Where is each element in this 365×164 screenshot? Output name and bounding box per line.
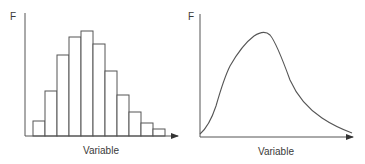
histogram-bar — [129, 112, 141, 136]
chart-canvas: F Variable F Variable — [0, 0, 365, 164]
histogram-bar — [153, 129, 165, 136]
histogram-bar — [105, 71, 117, 136]
curve-chart: F Variable — [188, 11, 353, 157]
left-x-axis-label: Variable — [83, 145, 119, 156]
histogram-bar — [33, 121, 45, 136]
histogram-bar — [141, 123, 153, 136]
left-y-axis-label: F — [10, 11, 16, 22]
histogram-bar — [69, 37, 81, 136]
histogram-bar — [93, 44, 105, 136]
histogram-bar — [81, 31, 93, 136]
right-x-axis-label: Variable — [258, 146, 294, 157]
histogram-bar — [57, 55, 69, 136]
histogram-bars — [33, 31, 165, 136]
histogram-chart: F Variable — [10, 11, 178, 156]
right-y-axis-label: F — [188, 11, 194, 22]
distribution-curve — [200, 32, 352, 134]
histogram-bar — [45, 91, 57, 136]
histogram-bar — [117, 95, 129, 136]
